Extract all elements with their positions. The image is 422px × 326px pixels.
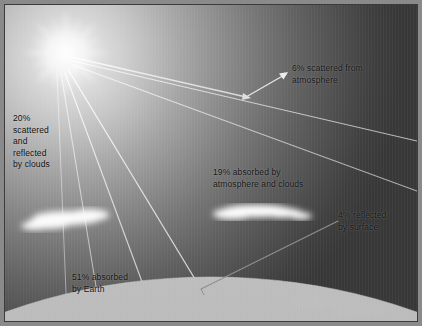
surface-reflected-ray (201, 221, 338, 289)
label-absorbed-by-earth: 51% absorbed by Earth (72, 272, 128, 295)
cloud-right (213, 205, 312, 220)
scattered-atmosphere-ray (246, 74, 286, 97)
beam-right-1 (73, 61, 417, 141)
cloud-left (21, 209, 109, 230)
beam-to-scatter-vertex (71, 57, 246, 97)
diagram-canvas (5, 5, 417, 321)
label-absorbed-atmosphere-clouds: 19% absorbed by atmosphere and clouds (213, 167, 303, 190)
scatter-arrowhead-icon (279, 72, 288, 80)
beam-down-4 (57, 73, 67, 317)
sun-core (49, 36, 83, 70)
beam-down-1 (69, 71, 201, 289)
diagram-stage: 20% scattered and reflected by clouds 6%… (0, 0, 422, 326)
scatter-vertex-marker (242, 93, 251, 100)
image-frame: 20% scattered and reflected by clouds 6%… (0, 0, 422, 326)
label-reflected-by-surface: 4% reflected by surface (338, 210, 386, 233)
label-scattered-from-atmosphere: 6% scattered from atmosphere (292, 63, 363, 86)
label-scattered-reflected-clouds: 20% scattered and reflected by clouds (13, 113, 50, 171)
image-plate: 20% scattered and reflected by clouds 6%… (4, 4, 418, 322)
